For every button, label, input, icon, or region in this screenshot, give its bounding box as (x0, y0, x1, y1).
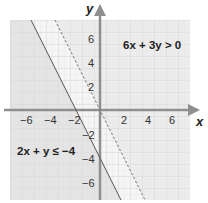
y-axis-label: y (85, 1, 94, 16)
x-tick-label: 4 (145, 114, 151, 126)
y-axis-arrow-icon (94, 4, 106, 16)
inequality-graph: y x −6 −4 −2 2 4 6 6 4 2 −2 −4 −6 6x + 3… (0, 0, 208, 203)
y-tick-label: −4 (82, 153, 95, 165)
x-tick-label: −4 (44, 114, 57, 126)
x-tick-label: −6 (20, 114, 33, 126)
inequality-label-solid: 2x + y ≤ −4 (17, 145, 76, 157)
x-tick-label: 6 (169, 114, 175, 126)
y-tick-label: 2 (88, 81, 94, 93)
x-axis-label: x (195, 114, 204, 129)
x-tick-label: −2 (68, 114, 81, 126)
y-tick-label: −2 (82, 129, 95, 141)
inequality-label-dashed: 6x + 3y > 0 (123, 39, 181, 51)
x-tick-label: 2 (121, 114, 127, 126)
y-tick-label: 6 (88, 33, 94, 45)
y-tick-label: −6 (82, 177, 95, 189)
y-tick-label: 4 (88, 57, 94, 69)
